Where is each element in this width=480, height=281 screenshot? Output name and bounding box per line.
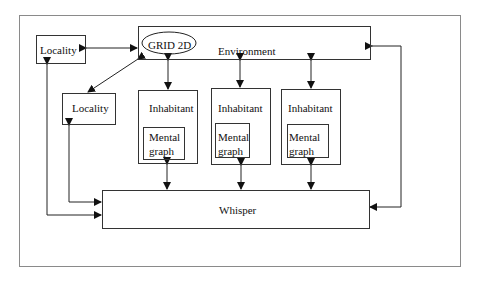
mental-graph-line2-1: graph xyxy=(149,145,174,158)
whisper-label: Whisper xyxy=(219,204,256,217)
mental-graph-line1-1: Mental xyxy=(149,131,180,144)
locality-label-2: Locality xyxy=(72,102,109,115)
mental-graph-line1-3: Mental xyxy=(289,131,320,144)
locality-label-1: Locality xyxy=(40,44,77,57)
environment-label: Environment xyxy=(218,45,275,58)
mental-graph-line1-2: Mental xyxy=(218,131,249,144)
inhabitant-label-2: Inhabitant xyxy=(218,102,263,115)
inhabitant-label-3: Inhabitant xyxy=(288,102,333,115)
inhabitant-label-1: Inhabitant xyxy=(149,102,194,115)
grid-2d-label: GRID 2D xyxy=(148,39,191,52)
mental-graph-line2-2: graph xyxy=(218,145,243,158)
mental-graph-line2-3: graph xyxy=(289,145,314,158)
